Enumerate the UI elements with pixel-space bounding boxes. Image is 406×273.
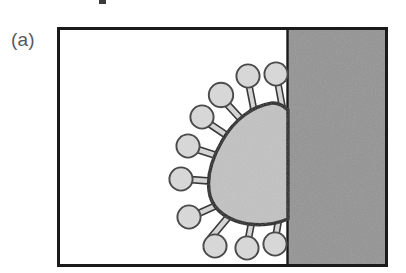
spike-head [176,134,199,157]
spike-head [190,105,213,128]
spike-head [203,234,226,257]
solid-surface-region [287,29,387,266]
spike-head [236,64,259,87]
spike-head [263,232,286,255]
spike-head [264,62,287,85]
spike-head [169,167,192,190]
figure-panel-a: (a) [0,0,406,273]
spike-head [177,205,200,228]
virus-adsorption-schematic [0,0,406,273]
spike-head [235,236,258,259]
spike-head [209,83,233,107]
